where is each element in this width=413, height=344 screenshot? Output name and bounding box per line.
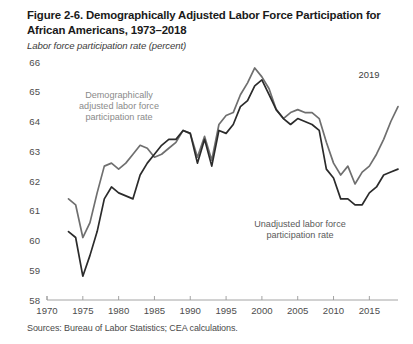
annotation-adjusted-line3: participation rate	[85, 112, 152, 122]
y-tick-label-62: 62	[29, 176, 40, 187]
figure-container: Figure 2-6. Demographically Adjusted Lab…	[0, 0, 413, 344]
figure-title: Figure 2-6. Demographically Adjusted Lab…	[27, 8, 392, 37]
annotation-unadjusted-line2: participation rate	[266, 230, 333, 240]
y-tick-label-59: 59	[29, 265, 40, 276]
x-tick-label-2015: 2015	[359, 305, 380, 314]
annotation-unadjusted-line1: Unadjusted labor force	[254, 219, 346, 229]
y-tick-label-64: 64	[29, 116, 40, 127]
x-tick-label-2000: 2000	[251, 305, 272, 314]
chart-series-group: Demographicallyadjusted labor forceparti…	[68, 68, 398, 276]
x-tick-label-1980: 1980	[108, 305, 129, 314]
y-tick-label-61: 61	[29, 205, 40, 216]
x-tick-label-1985: 1985	[144, 305, 165, 314]
annotation-adjusted-line2: adjusted labor force	[79, 101, 159, 111]
x-tick-label-1970: 1970	[36, 305, 57, 314]
y-tick-label-65: 65	[29, 86, 40, 97]
y-tick-label-63: 63	[29, 146, 40, 157]
x-tick-label-2005: 2005	[287, 305, 308, 314]
y-tick-label-60: 60	[29, 235, 40, 246]
x-tick-label-2010: 2010	[323, 305, 344, 314]
annotation-adjusted-line1: Demographically	[85, 90, 153, 100]
axis-units-subtitle: Labor force participation rate (percent)	[27, 40, 186, 51]
chart-plot-area: 585960616263646566 197019751980198519901…	[0, 52, 413, 314]
y-tick-label-66: 66	[29, 57, 40, 68]
x-tick-label-1975: 1975	[72, 305, 93, 314]
source-note: Sources: Bureau of Labor Statistics; CEA…	[27, 323, 238, 333]
x-tick-label-1990: 1990	[180, 305, 201, 314]
x-axis: 1970197519801985199019952000200520102015	[36, 296, 398, 314]
y-axis-tick-labels: 585960616263646566	[29, 57, 40, 306]
x-tick-label-1995: 1995	[215, 305, 236, 314]
annotation-year-2019: 2019	[359, 69, 380, 80]
line-chart: 585960616263646566 197019751980198519901…	[0, 52, 413, 314]
y-tick-label-58: 58	[29, 295, 40, 306]
